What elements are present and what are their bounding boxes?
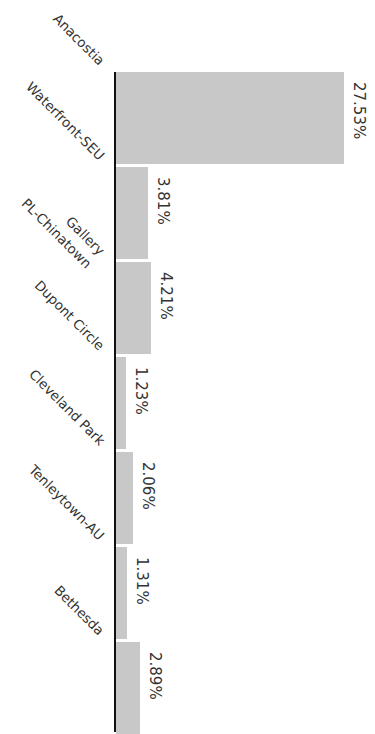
value-label: 4.21% <box>157 272 175 320</box>
bar-gallery-pl-chinatown <box>116 262 151 354</box>
bar-dupont-circle <box>116 357 126 449</box>
bar-tenleytown-au <box>116 547 127 639</box>
category-label: Anacostia <box>50 10 108 68</box>
value-label: 27.53% <box>350 82 368 139</box>
value-label: 1.31% <box>133 557 151 605</box>
category-label: Dupont Circle <box>32 277 108 353</box>
bar-waterfront-seu <box>116 167 148 259</box>
value-label: 2.89% <box>146 652 164 700</box>
category-label: Waterfront-SEU <box>23 79 108 164</box>
value-label: 2.06% <box>139 462 157 510</box>
value-label: 3.81% <box>154 177 172 225</box>
bar-bethesda <box>116 642 140 734</box>
category-label: Cleveland Park <box>26 366 108 448</box>
bar-anacostia <box>116 72 344 164</box>
value-label: 1.23% <box>132 367 150 415</box>
category-label: Tenleytown-AU <box>26 461 108 543</box>
bar-cleveland-park <box>116 452 133 544</box>
category-label: Bethesda <box>52 582 108 638</box>
